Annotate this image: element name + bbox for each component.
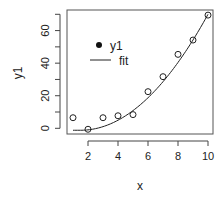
x-tick-label: 4 [115,150,121,162]
y-axis: 0204060 [39,14,60,131]
data-points [70,12,211,132]
y-tick-label: 40 [39,57,51,69]
x-tick-label: 8 [175,150,181,162]
data-point [160,74,166,80]
data-point [115,113,121,119]
x-axis-title: x [137,179,143,193]
legend-label-fit: fit [119,54,129,68]
data-point [175,51,181,57]
y-axis-title: y1 [11,66,25,79]
legend-label-y1: y1 [110,39,123,53]
x-tick-label: 10 [202,150,214,162]
data-point [145,89,151,95]
legend-dot-icon [96,42,102,48]
scatter-chart: 0204060 246810 y1 fit x y1 [0,0,224,199]
y-tick-label: 0 [39,125,51,131]
data-point [70,115,76,121]
y-tick-label: 20 [39,90,51,102]
x-axis: 246810 [85,141,214,162]
y-tick-label: 60 [39,24,51,36]
data-point [130,112,136,118]
x-tick-label: 2 [85,150,91,162]
plot-frame [67,10,213,134]
fit-curve [73,14,208,130]
legend: y1 fit [90,39,129,68]
data-point [100,115,106,121]
x-tick-label: 6 [145,150,151,162]
fit-line [73,14,208,130]
